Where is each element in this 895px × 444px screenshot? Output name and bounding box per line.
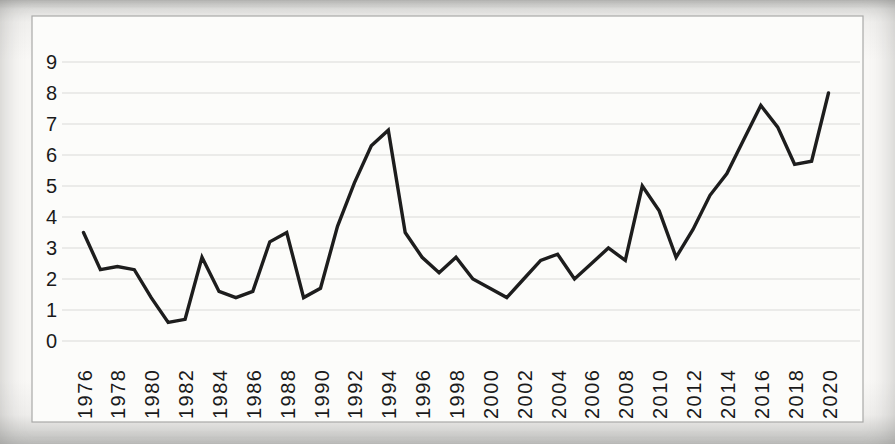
- y-tick-label: 2: [46, 268, 57, 290]
- y-tick-label: 9: [46, 51, 57, 73]
- x-tick-label: 1994: [378, 369, 400, 420]
- x-tick-label: 1982: [175, 369, 197, 420]
- x-tick-label: 2020: [819, 369, 841, 420]
- x-tick-label: 2016: [751, 369, 773, 420]
- x-tick-label: 2012: [683, 369, 705, 420]
- y-tick-label: 4: [46, 206, 57, 228]
- x-tick-label: 2008: [615, 369, 637, 420]
- x-tick-label: 1996: [412, 369, 434, 420]
- x-tick-label: 1990: [311, 369, 333, 420]
- x-tick-label: 2018: [785, 369, 807, 420]
- y-tick-label: 6: [46, 144, 57, 166]
- x-tick-label: 2004: [548, 369, 570, 420]
- x-tick-label: 2002: [514, 369, 536, 420]
- plot-border: [32, 16, 863, 422]
- x-tick-label: 2014: [717, 369, 739, 420]
- line-chart: 0123456789197619781980198219841986198819…: [0, 0, 895, 444]
- x-tick-label: 2006: [581, 369, 603, 420]
- x-tick-label: 2010: [649, 369, 671, 420]
- x-tick-label: 2000: [480, 369, 502, 420]
- y-tick-label: 8: [46, 82, 57, 104]
- x-tick-label: 1980: [141, 369, 163, 420]
- x-tick-label: 1984: [209, 369, 231, 420]
- x-tick-label: 1998: [446, 369, 468, 420]
- y-tick-label: 7: [46, 113, 57, 135]
- x-tick-label: 1978: [107, 369, 129, 420]
- x-tick-label: 1988: [277, 369, 299, 420]
- y-tick-label: 3: [46, 237, 57, 259]
- y-tick-label: 1: [46, 299, 57, 321]
- x-tick-label: 1976: [74, 369, 96, 420]
- x-tick-label: 1992: [344, 369, 366, 420]
- chart-photo: 0123456789197619781980198219841986198819…: [0, 0, 895, 444]
- y-tick-label: 5: [46, 175, 57, 197]
- x-tick-label: 1986: [243, 369, 265, 420]
- y-tick-label: 0: [46, 330, 57, 352]
